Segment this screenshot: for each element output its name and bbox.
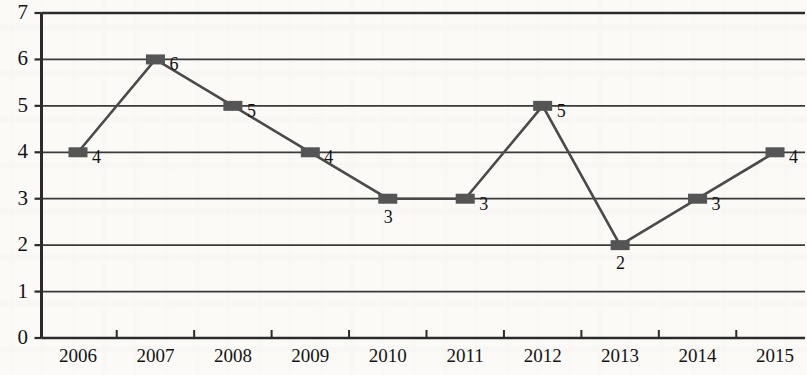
data-point-marker: [378, 194, 397, 204]
data-point-marker: [223, 101, 242, 111]
data-point-marker: [766, 147, 785, 157]
y-axis-tick-label: 5: [2, 93, 28, 118]
x-axis-tick-label: 2006: [38, 345, 118, 367]
y-axis-tick-label: 1: [2, 279, 28, 304]
y-axis-tick-label: 6: [2, 46, 28, 71]
data-point-value-label: 5: [247, 101, 256, 122]
data-point-marker: [301, 147, 320, 157]
x-axis-tick-label: 2013: [580, 345, 660, 367]
data-point-marker: [611, 240, 630, 250]
y-axis-tick-label: 2: [2, 232, 28, 257]
y-axis-tick-label: 0: [2, 325, 28, 350]
x-axis-tick-label: 2009: [270, 345, 350, 367]
data-point-value-label: 3: [384, 207, 393, 228]
data-point-value-label: 4: [789, 147, 798, 168]
x-axis-tick-label: 2012: [503, 345, 583, 367]
data-point-value-label: 3: [712, 194, 721, 215]
x-axis-tick-label: 2008: [193, 345, 273, 367]
line-chart-figure: 01234567 2006200720082009201020112012201…: [0, 0, 807, 375]
data-point-value-label: 4: [92, 147, 101, 168]
y-axis-tick-label: 4: [2, 139, 28, 164]
x-axis-tick-label: 2011: [425, 345, 505, 367]
data-point-marker: [688, 194, 707, 204]
data-point-value-label: 5: [557, 101, 566, 122]
x-axis-tick-label: 2014: [658, 345, 738, 367]
y-axis-tick-label: 7: [2, 0, 28, 25]
data-point-value-label: 6: [169, 54, 178, 75]
y-axis-tick-label: 3: [2, 186, 28, 211]
data-point-marker: [456, 194, 475, 204]
x-axis-tick-label: 2015: [735, 345, 807, 367]
data-point-marker: [69, 147, 88, 157]
x-axis-tick-label: 2007: [115, 345, 195, 367]
x-axis-tick-label: 2010: [348, 345, 428, 367]
data-point-marker: [533, 101, 552, 111]
data-point-value-label: 2: [616, 253, 625, 274]
data-point-value-label: 3: [479, 194, 488, 215]
chart-plot-area: [0, 0, 807, 375]
data-point-marker: [146, 54, 165, 64]
data-point-value-label: 4: [324, 147, 333, 168]
